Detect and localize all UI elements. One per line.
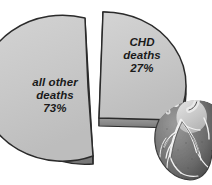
pie-slice-all-other-deaths[interactable] (0, 15, 93, 164)
pie-chart-figure (0, 0, 212, 185)
pie-slice-face-chd (99, 12, 186, 120)
heart-vena-cava (197, 94, 212, 99)
pie-slice-face-all-other (0, 15, 93, 161)
